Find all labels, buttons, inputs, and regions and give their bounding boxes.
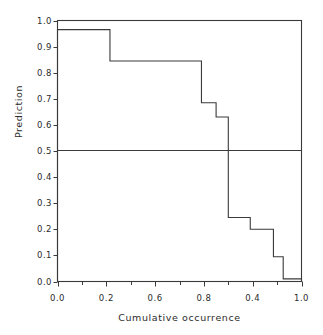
x-tick-label: 0.4 <box>233 293 273 303</box>
y-tick-label: 0.7 <box>22 94 52 104</box>
y-axis-tick-labels: 0.00.10.20.30.40.50.60.70.80.91.0 <box>18 0 52 335</box>
x-tick-label: 0.8 <box>184 293 224 303</box>
y-tick-label: 0.1 <box>22 250 52 260</box>
y-tick-label: 0.0 <box>22 277 52 287</box>
y-tick-label: 1.0 <box>22 16 52 26</box>
y-tick-label: 0.5 <box>22 146 52 156</box>
y-tick-label: 0.9 <box>22 42 52 52</box>
chart-figure: Prediction Cumulative occurrence 0.00.10… <box>0 0 323 335</box>
y-tick-label: 0.6 <box>22 120 52 130</box>
x-tick-label: 0.6 <box>135 293 175 303</box>
step-curve <box>58 30 302 282</box>
y-tick-label: 0.2 <box>22 224 52 234</box>
x-tick-label: 0.2 <box>86 293 126 303</box>
y-tick-label: 0.4 <box>22 172 52 182</box>
x-axis-title: Cumulative occurrence <box>57 312 302 323</box>
x-tick-label: 0.0 <box>38 293 78 303</box>
y-tick-label: 0.8 <box>22 68 52 78</box>
y-tick-label: 0.3 <box>22 198 52 208</box>
x-axis-tick-labels: 0.00.20.60.80.41.0 <box>0 293 323 307</box>
x-tick-label: 1.0 <box>282 293 322 303</box>
